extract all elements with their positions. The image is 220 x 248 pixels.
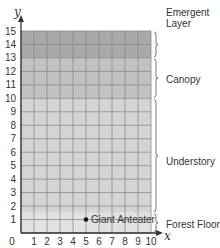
y-tick-label: 1 (10, 214, 16, 225)
y-tick-label: 2 (10, 201, 16, 212)
x-tick-label: 9 (135, 236, 141, 247)
y-tick-label: 3 (10, 187, 16, 198)
label-understory: Understory (166, 156, 215, 167)
y-tick-label: 7 (10, 133, 16, 144)
emergent-label-line2: Layer (166, 18, 209, 29)
x-tick-label: 7 (109, 236, 115, 247)
x-tick-label: 0 (9, 236, 15, 247)
x-tick-label: 10 (145, 236, 157, 247)
x-tick-label: 1 (31, 236, 37, 247)
x-tick-label: 2 (44, 236, 50, 247)
y-axis-label: y (13, 5, 21, 19)
brace-canopy (154, 59, 158, 97)
label-forest-floor: Forest Floor (166, 219, 220, 230)
data-point-label: Giant Anteater (91, 214, 156, 225)
y-tick-label: 10 (5, 93, 17, 104)
x-tick-label: 6 (96, 236, 102, 247)
rainforest-layers-chart: yx 012345678910123456789101112131415 Gia… (0, 0, 220, 248)
data-point-marker (84, 217, 89, 222)
brace-understory (154, 99, 158, 211)
brace-emergent-layer (154, 32, 158, 57)
y-tick-label: 9 (10, 106, 16, 117)
y-tick-label: 5 (10, 160, 16, 171)
label-canopy: Canopy (166, 74, 200, 85)
y-tick-label: 8 (10, 120, 16, 131)
emergent-label-line1: Emergent (166, 7, 209, 18)
label-emergent-layer: Emergent Layer (166, 7, 209, 29)
x-axis-arrow-icon (156, 230, 163, 236)
y-tick-label: 12 (5, 66, 17, 77)
y-tick-label: 15 (5, 26, 17, 37)
x-tick-label: 5 (83, 236, 89, 247)
x-tick-label: 3 (57, 236, 63, 247)
layer-braces (154, 32, 158, 232)
y-tick-label: 11 (6, 79, 17, 90)
y-tick-label: 4 (10, 174, 16, 185)
data-points: Giant Anteater (84, 214, 156, 225)
y-tick-label: 13 (5, 52, 17, 63)
x-axis-label: x (164, 229, 171, 243)
y-tick-label: 6 (10, 147, 16, 158)
x-tick-label: 4 (70, 236, 76, 247)
x-tick-label: 8 (122, 236, 128, 247)
y-tick-label: 14 (5, 39, 17, 50)
